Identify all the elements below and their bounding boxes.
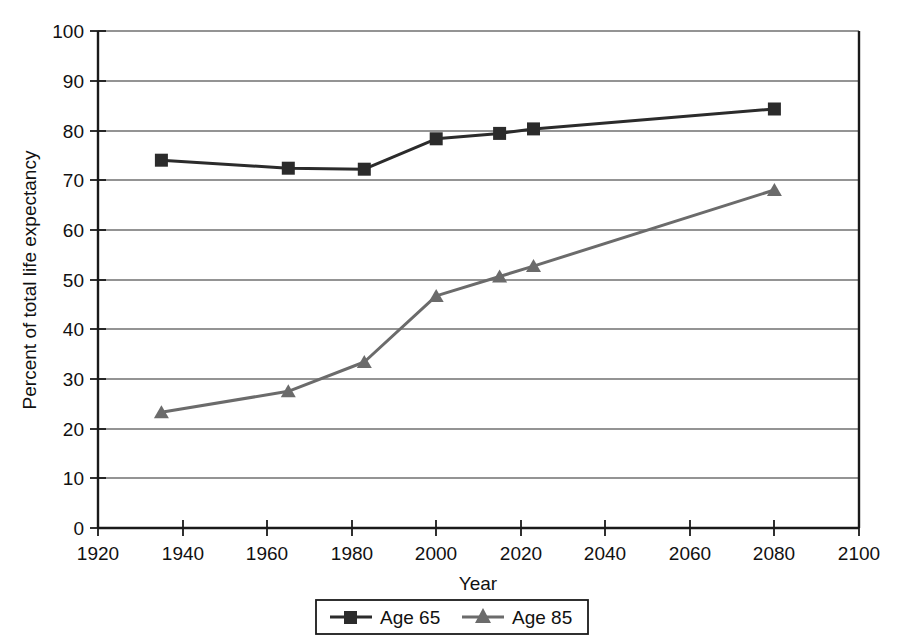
- x-tick-label: 2100: [838, 543, 880, 564]
- x-tick-label: 2080: [753, 543, 795, 564]
- x-axis-title: Year: [459, 573, 498, 594]
- x-tick-label: 2000: [415, 543, 457, 564]
- data-point-square: [358, 163, 371, 176]
- x-tick-label: 2020: [500, 543, 542, 564]
- y-tick-label: 60: [63, 220, 84, 241]
- x-tick-label: 1960: [246, 543, 288, 564]
- data-point-square: [282, 162, 295, 175]
- y-tick-label: 10: [63, 468, 84, 489]
- y-tick-label: 50: [63, 270, 84, 291]
- data-point-square: [527, 122, 540, 135]
- data-point-square: [430, 132, 443, 145]
- data-point-square: [155, 154, 168, 167]
- legend-label-age-65: Age 65: [380, 607, 440, 628]
- x-tick-label: 1920: [77, 543, 119, 564]
- legend-label-age-85: Age 85: [512, 607, 572, 628]
- legend: Age 65 Age 85: [316, 600, 588, 634]
- y-axis-title: Percent of total life expectancy: [19, 150, 40, 409]
- y-tick-label: 80: [63, 121, 84, 142]
- x-tick-label: 1940: [162, 543, 204, 564]
- x-tick-label: 2060: [669, 543, 711, 564]
- y-tick-label: 20: [63, 419, 84, 440]
- y-tick-label: 30: [63, 369, 84, 390]
- legend-marker-square-icon: [344, 611, 357, 624]
- x-tick-label: 2040: [584, 543, 626, 564]
- x-tick-label: 1980: [331, 543, 373, 564]
- data-point-square: [768, 103, 781, 116]
- y-tick-label: 0: [73, 518, 84, 539]
- y-tick-label: 100: [52, 21, 84, 42]
- y-tick-label: 40: [63, 319, 84, 340]
- y-tick-label: 90: [63, 71, 84, 92]
- data-point-square: [493, 127, 506, 140]
- life-expectancy-line-chart: 100 90 80 70 60 50 40 30 20 10 0 1920 19…: [0, 0, 899, 644]
- y-tick-label: 70: [63, 170, 84, 191]
